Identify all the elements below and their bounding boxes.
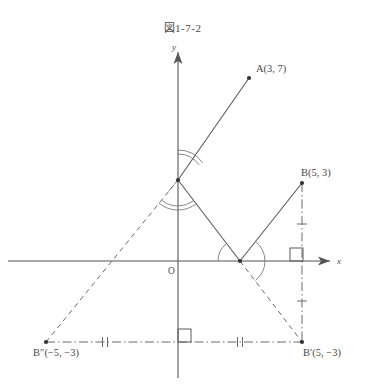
- point-dot-A: [247, 76, 251, 80]
- point-dot-B: [300, 181, 304, 185]
- geometry-figure: 図1-7-2 x y O A(3, 7)B(5, 3)B′(5, −3)B″(−…: [0, 0, 365, 385]
- segment-Q-P: [178, 180, 240, 261]
- origin-label: O: [168, 266, 175, 276]
- point-dot-Q: [176, 178, 180, 182]
- point-label-B: B(5, 3): [301, 167, 331, 179]
- coordinate-plane-svg: x y O A(3, 7)B(5, 3)B′(5, −3)B″(−5, −3): [0, 0, 365, 385]
- right-angle-at-baseline: [178, 329, 191, 342]
- segment-P-Bp: [240, 261, 302, 342]
- point-dot-P: [238, 259, 242, 263]
- right-angle-at-x-axis: [290, 248, 303, 261]
- figure-title: 図1-7-2: [0, 19, 365, 35]
- point-labels-group: A(3, 7)B(5, 3)B′(5, −3)B″(−5, −3): [33, 63, 341, 359]
- point-dot-Bpp: [44, 340, 48, 344]
- point-label-A: A(3, 7): [256, 63, 287, 75]
- segment-P-B: [240, 183, 302, 261]
- tick-marks-group: [103, 224, 308, 347]
- point-dot-Bp: [300, 340, 304, 344]
- y-axis-label: y: [171, 42, 176, 52]
- solid-lines-group: [178, 78, 302, 261]
- x-axis-label: x: [336, 256, 341, 266]
- point-label-Bp: B′(5, −3): [303, 347, 341, 359]
- point-label-Bpp: B″(−5, −3): [33, 347, 79, 359]
- dashdot-lines-group: [46, 183, 302, 342]
- segment-A-Q: [178, 78, 249, 180]
- angle-arc-P-left: [218, 244, 226, 261]
